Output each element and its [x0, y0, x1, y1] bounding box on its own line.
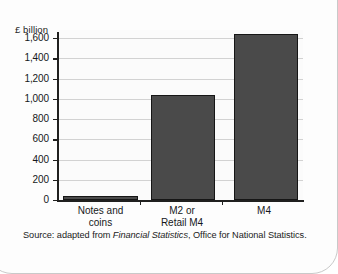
y-tick-label-200: 200 — [33, 174, 49, 185]
source-note-publication: Financial Statistics — [113, 230, 188, 240]
y-tick-label-400: 400 — [33, 154, 49, 165]
y-tick-label-1200: 1,200 — [24, 73, 49, 84]
x-tick-label-m2-or-retail-m4: M2 or Retail M4 — [141, 205, 223, 228]
bar-m4[interactable] — [234, 34, 298, 200]
x-tick-label-m4: M4 — [224, 205, 304, 217]
y-tick-mark-400 — [53, 160, 58, 161]
y-tick-label-1000: 1,000 — [24, 93, 49, 104]
y-tick-mark-1200 — [53, 79, 58, 80]
y-tick-mark-1000 — [53, 99, 58, 100]
y-tick-label-800: 800 — [33, 113, 49, 124]
source-note-prefix: Source: adapted from — [23, 230, 113, 240]
y-tick-label-1400: 1,400 — [24, 52, 49, 63]
y-tick-label-0: 0 — [44, 194, 49, 205]
y-tick-mark-1600 — [53, 38, 58, 39]
x-tick-label-notes-and-coins: Notes and coins — [58, 205, 143, 228]
bar-m2-or-retail-m4[interactable] — [151, 95, 215, 200]
y-tick-mark-1400 — [53, 58, 58, 59]
source-note: Source: adapted from Financial Statistic… — [23, 230, 307, 240]
y-tick-mark-0 — [53, 200, 58, 201]
y-tick-mark-200 — [53, 180, 58, 181]
bar-notes-and-coins[interactable] — [63, 196, 138, 200]
y-tick-mark-800 — [53, 119, 58, 120]
y-tick-label-600: 600 — [33, 133, 49, 144]
x-axis-line — [58, 200, 304, 202]
y-tick-label-1600: 1,600 — [24, 32, 49, 43]
y-tick-mark-600 — [53, 139, 58, 140]
source-note-suffix: , Office for National Statistics. — [188, 230, 307, 240]
